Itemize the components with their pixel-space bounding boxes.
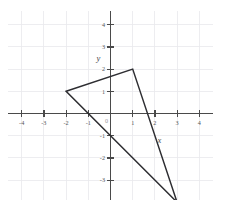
y-tick-label: 3 (102, 43, 105, 50)
y-tick-label: 4 (102, 21, 105, 28)
y-axis-name: y (95, 53, 100, 63)
x-tick-label: 3 (176, 119, 179, 126)
origin-label: 0 (105, 117, 108, 124)
x-axis-name: x (156, 135, 161, 145)
coordinate-plane-figure: -4-3-2-112344321-1-2-3-40 yx (0, 0, 233, 200)
y-tick-label: -2 (100, 154, 105, 161)
x-tick-label: -1 (86, 119, 91, 126)
y-tick-label: 2 (102, 65, 105, 72)
x-tick-label: 1 (131, 119, 134, 126)
x-tick-label: 4 (198, 119, 201, 126)
x-tick-label: -4 (19, 119, 24, 126)
x-tick-label: 2 (153, 119, 156, 126)
axes (8, 11, 212, 200)
y-tick-label: -4 (100, 199, 105, 201)
y-tick-label: -3 (100, 176, 105, 183)
graph-canvas: -4-3-2-112344321-1-2-3-40 yx (0, 0, 233, 200)
y-tick-label: 1 (102, 88, 105, 95)
x-tick-label: -3 (41, 119, 46, 126)
axis-name-labels: yx (95, 53, 161, 145)
x-tick-label: -2 (64, 119, 69, 126)
y-tick-label: -1 (100, 132, 105, 139)
